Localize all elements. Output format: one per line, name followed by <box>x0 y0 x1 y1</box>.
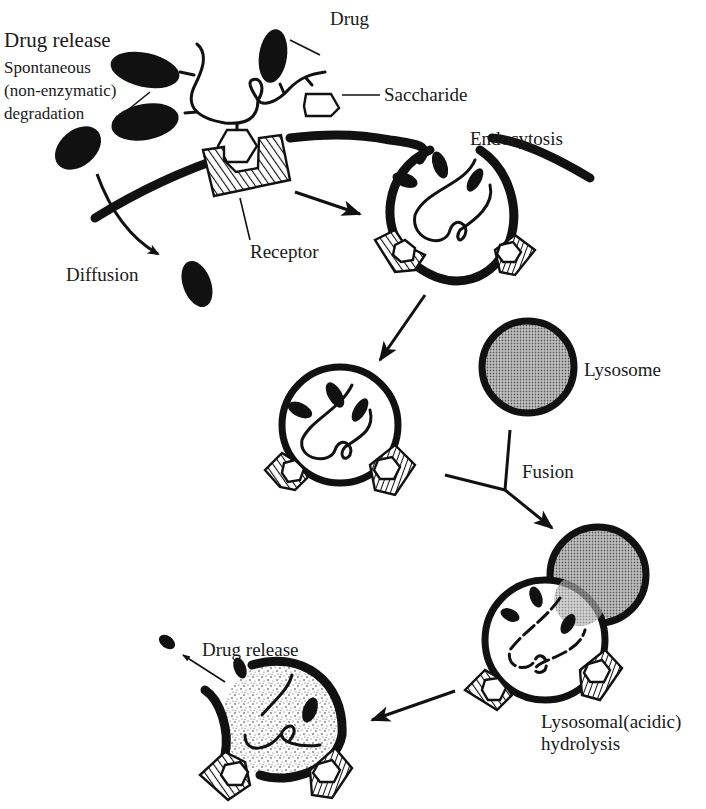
lysosome <box>482 321 574 413</box>
label-endocytosis: Endocytosis <box>470 128 563 149</box>
label-drug-release-bottom: Drug release <box>202 639 299 660</box>
endocytosis-diagram: Drug release Spontaneous (non-enzymatic)… <box>0 0 706 809</box>
drug-icon <box>176 257 219 312</box>
label-saccharide: Saccharide <box>384 84 467 105</box>
label-receptor: Receptor <box>250 241 319 262</box>
drug-icon <box>47 117 110 178</box>
released-drug-icon <box>156 632 178 652</box>
label-lysosomal-hydrolysis-1: Lysosomal(acidic) <box>541 711 681 733</box>
endocytosis-vesicle <box>375 149 535 280</box>
saccharide-icon <box>304 94 339 116</box>
label-drug-release-top: Drug release <box>4 28 111 52</box>
label-fusion: Fusion <box>522 461 574 482</box>
drug-icon <box>108 98 181 145</box>
label-degradation: degradation <box>4 104 85 123</box>
label-non-enzymatic: (non-enzymatic) <box>4 81 116 100</box>
label-diffusion: Diffusion <box>66 264 139 285</box>
label-spontaneous: Spontaneous <box>4 58 91 77</box>
endosome <box>265 367 415 495</box>
label-lysosome: Lysosome <box>584 359 661 380</box>
drug-icon <box>107 46 183 94</box>
drug-icon <box>255 27 290 84</box>
label-lysosomal-hydrolysis-2: hydrolysis <box>541 733 620 754</box>
fused-lysosome-endosome <box>465 527 646 710</box>
label-drug: Drug <box>330 8 370 29</box>
